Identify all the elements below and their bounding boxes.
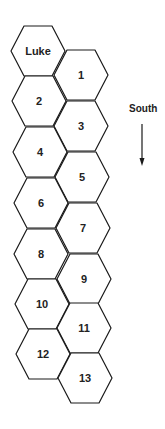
south-arrow-icon — [140, 124, 145, 166]
hex-label: 5 — [79, 171, 85, 183]
hex-label: 3 — [78, 120, 84, 132]
hex-label: 13 — [79, 372, 91, 384]
hex-label: Luke — [25, 45, 51, 57]
hex-label: 2 — [36, 95, 42, 107]
hex-label: 11 — [78, 322, 90, 334]
hex-label: 12 — [37, 348, 49, 360]
hex-grid: Luke12345678910111213 — [0, 0, 165, 429]
hex-label: 4 — [37, 146, 44, 158]
hex-label: 9 — [81, 273, 87, 285]
hex-label: 10 — [36, 298, 48, 310]
hex-label: 8 — [38, 248, 44, 260]
hex-label: 7 — [80, 222, 86, 234]
hex-label: 1 — [78, 69, 84, 81]
hex-label: 6 — [38, 197, 44, 209]
direction-label: South — [129, 103, 157, 114]
